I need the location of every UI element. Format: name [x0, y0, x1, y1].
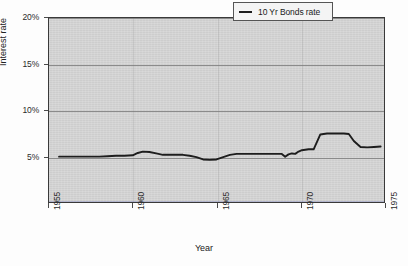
- y-tick-label-5%: 5%: [9, 152, 39, 162]
- line-swatch-icon: [239, 11, 252, 13]
- legend-entry-label: 10 Yr Bonds rate: [258, 7, 320, 17]
- y-tick-label-10%: 10%: [9, 105, 39, 115]
- series-lines: [49, 18, 384, 203]
- y-axis-title: Interest rate: [0, 18, 8, 66]
- series-line-10-yr-bonds-rate: [59, 134, 381, 160]
- plot-area: [48, 17, 385, 203]
- y-tick-label-15%: 15%: [9, 59, 39, 69]
- x-tick-mark-1960: [132, 203, 133, 208]
- chart-figure: Interest rate 5%10%15%20% 19551960196519…: [0, 0, 408, 266]
- x-tick-label-1970: 1970: [305, 192, 315, 210]
- chart-legend[interactable]: 10 Yr Bonds rate: [233, 2, 333, 21]
- x-tick-mark-1970: [301, 203, 302, 208]
- y-tick-label-20%: 20%: [9, 12, 39, 22]
- x-tick-mark-1965: [217, 203, 218, 208]
- x-tick-label-1960: 1960: [136, 192, 146, 210]
- x-axis-title: Year: [0, 243, 408, 253]
- x-tick-label-1965: 1965: [221, 192, 231, 210]
- x-tick-mark-1955: [48, 203, 49, 208]
- x-tick-mark-1975: [385, 203, 386, 208]
- x-tick-label-1955: 1955: [52, 192, 62, 210]
- x-tick-label-1975: 1975: [389, 192, 399, 210]
